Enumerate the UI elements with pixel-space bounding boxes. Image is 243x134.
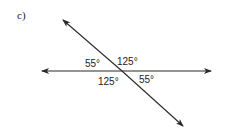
angle-diagram: c) 55° 125° 125° 55° xyxy=(0,0,243,134)
angle-label-top-left: 55° xyxy=(85,58,100,69)
part-label: c) xyxy=(17,9,26,22)
angle-label-top-right: 125° xyxy=(117,56,138,67)
angle-label-bottom-right: 55° xyxy=(139,74,154,85)
angle-label-bottom-left: 125° xyxy=(98,76,119,87)
